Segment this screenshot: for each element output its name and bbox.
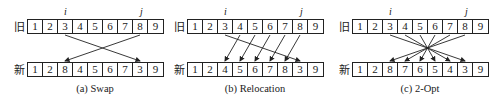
new-cell: 3	[133, 63, 148, 76]
new-cell: 6	[413, 63, 428, 76]
new-cell: 1	[28, 63, 43, 76]
new-cell: 7	[398, 63, 413, 76]
new-cell: 4	[73, 63, 88, 76]
new-sequence: 1 2 8 7 6 5 4 3 9	[352, 62, 489, 77]
new-cell: 4	[443, 63, 458, 76]
new-cell: 8	[383, 63, 398, 76]
new-cell: 3	[458, 63, 473, 76]
new-cell: 7	[263, 63, 278, 76]
new-cell: 2	[43, 63, 58, 76]
new-cell: 7	[118, 63, 133, 76]
new-cell: 8	[58, 63, 73, 76]
panel-relocation: i j 旧 1 2 3 4 5 6 7 8 9 新 1 2 4 5 6 7 8 …	[165, 0, 330, 103]
new-cell: 4	[218, 63, 233, 76]
new-cell: 6	[248, 63, 263, 76]
new-row-label: 新	[339, 63, 350, 77]
new-cell: 2	[203, 63, 218, 76]
new-cell: 9	[473, 63, 488, 76]
caption: (a) Swap	[20, 83, 170, 94]
caption: (b) Relocation	[180, 83, 330, 94]
new-cell: 6	[103, 63, 118, 76]
new-cell: 9	[308, 63, 323, 76]
new-cell: 9	[148, 63, 163, 76]
new-sequence: 1 2 8 4 5 6 7 3 9	[27, 62, 164, 77]
new-sequence: 1 2 4 5 6 7 8 3 9	[187, 62, 324, 77]
new-cell: 3	[293, 63, 308, 76]
new-cell: 8	[278, 63, 293, 76]
new-cell: 2	[368, 63, 383, 76]
panel-two-opt: i j 旧 1 2 3 4 5 6 7 8 9 新 1 2 8 7 6 5 4 …	[330, 0, 498, 103]
new-row-label: 新	[174, 63, 185, 77]
new-cell: 5	[233, 63, 248, 76]
new-cell: 5	[428, 63, 443, 76]
new-row-label: 新	[14, 63, 25, 77]
panel-swap: i j 旧 1 2 3 4 5 6 7 8 9 新 1 2 8 4 5 6 7 …	[0, 0, 165, 103]
new-cell: 1	[353, 63, 368, 76]
new-cell: 5	[88, 63, 103, 76]
caption: (c) 2-Opt	[345, 83, 495, 94]
new-cell: 1	[188, 63, 203, 76]
